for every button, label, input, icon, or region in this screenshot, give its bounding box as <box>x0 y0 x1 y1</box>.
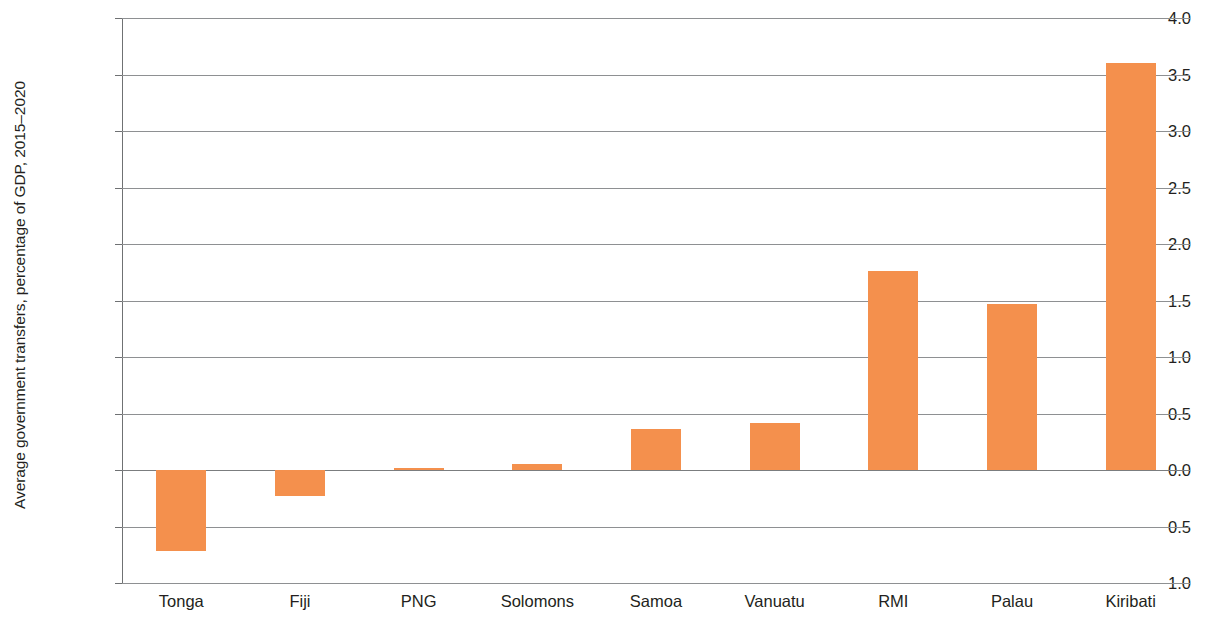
gridline <box>122 583 1190 584</box>
plot-area <box>122 18 1190 583</box>
bar-samoa <box>631 429 681 470</box>
bar-fiji <box>275 470 325 496</box>
y-axis-tick-mark <box>115 18 122 19</box>
y-axis-tick-mark <box>115 357 122 358</box>
gridline <box>122 18 1190 19</box>
bar-rmi <box>868 271 918 470</box>
gridline <box>122 131 1190 132</box>
y-axis-tick-mark <box>115 244 122 245</box>
bar-png <box>394 468 444 470</box>
bar-tonga <box>156 470 206 551</box>
y-axis-tick-mark <box>115 188 122 189</box>
bar-solomons <box>512 464 562 470</box>
bar-palau <box>987 304 1037 470</box>
y-axis-tick-mark <box>115 583 122 584</box>
gridline <box>122 527 1190 528</box>
bar-vanuatu <box>750 423 800 470</box>
gridline <box>122 301 1190 302</box>
y-axis-title: Average government transfers, percentage… <box>0 0 40 590</box>
gridline <box>122 188 1190 189</box>
bar-chart: Average government transfers, percentage… <box>0 0 1205 618</box>
gridline <box>122 244 1190 245</box>
y-axis-tick-mark <box>115 75 122 76</box>
y-axis-tick-mark <box>115 470 122 471</box>
y-axis-tick-mark <box>115 527 122 528</box>
y-axis-tick-mark <box>115 131 122 132</box>
bar-kiribati <box>1106 63 1156 470</box>
gridline <box>122 75 1190 76</box>
y-axis-title-text: Average government transfers, percentage… <box>11 81 29 509</box>
y-axis-tick-mark <box>115 301 122 302</box>
y-axis-tick-mark <box>115 414 122 415</box>
x-axis-label-kiribati: Kiribati <box>1061 592 1201 611</box>
